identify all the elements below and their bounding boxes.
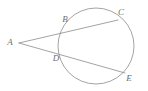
secant-a-to-c xyxy=(19,20,118,43)
vertex-label-a: A xyxy=(6,37,13,47)
secant-a-to-e xyxy=(19,43,125,73)
vertex-label-b: B xyxy=(62,14,68,24)
vertex-label-d: D xyxy=(52,53,60,63)
vertex-label-c: C xyxy=(118,7,125,17)
geometry-figure: A B C D E xyxy=(0,0,148,91)
geometry-canvas: A B C D E xyxy=(0,0,148,91)
vertex-label-e: E xyxy=(125,73,132,83)
